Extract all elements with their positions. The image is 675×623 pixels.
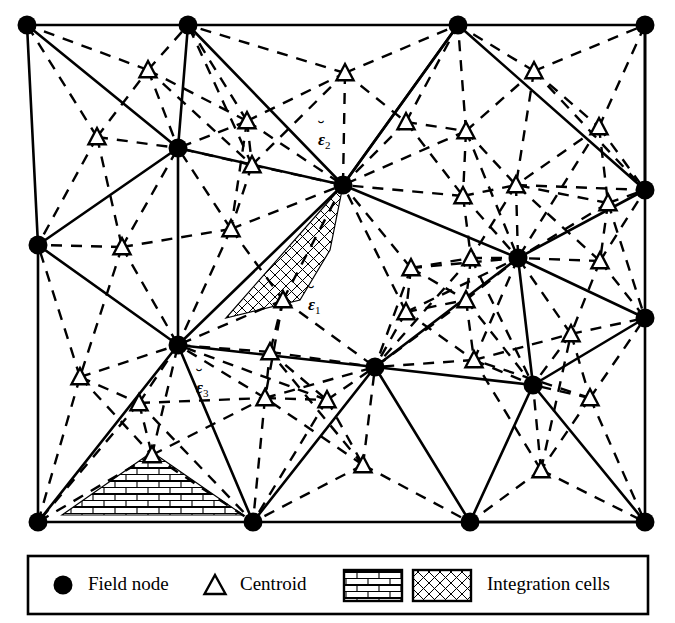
integration-cell-edge <box>541 398 590 470</box>
integration-cell-edge <box>122 148 178 247</box>
mesh-edge <box>375 367 470 522</box>
integration-cell-edge <box>458 25 466 131</box>
field-node-marker <box>636 16 655 35</box>
field-node-marker <box>18 16 37 35</box>
mesh-edge <box>253 367 375 522</box>
field-node-marker <box>524 376 543 395</box>
legend <box>28 556 648 614</box>
integration-cell-edge <box>375 360 474 367</box>
integration-cell-edge <box>516 127 599 185</box>
integration-cell-edge <box>80 377 152 455</box>
integration-cell-edge <box>406 122 463 196</box>
mesh-edge <box>38 245 178 345</box>
mesh-edge <box>533 318 645 385</box>
integration-cell-edge <box>270 352 363 465</box>
integration-cell-edge <box>27 25 148 70</box>
integration-cell-edge <box>571 261 600 334</box>
integration-cell-edge <box>188 25 252 165</box>
centroid-marker <box>532 461 549 477</box>
integration-cell-edge <box>463 196 471 258</box>
integration-cell-edge <box>247 73 345 121</box>
mesh-diagram <box>0 0 675 623</box>
integration-cell-edge <box>474 334 571 360</box>
integration-cell-edge <box>466 300 533 385</box>
integration-cell-edge <box>38 137 97 245</box>
mesh-edge <box>178 25 188 148</box>
integration-cell-edge <box>27 25 97 137</box>
integration-cell-edge <box>152 398 265 455</box>
legend-hatch-swatch-icon <box>413 570 471 601</box>
integration-cell-edge <box>343 185 463 196</box>
centroid-marker <box>397 113 414 129</box>
integration-cell-edge <box>406 25 458 122</box>
centroid-marker <box>238 112 255 128</box>
mesh-edge <box>470 385 533 522</box>
integration-cell-edge <box>80 345 178 377</box>
integration-cell-edge <box>265 398 363 465</box>
field-node-marker <box>636 309 655 328</box>
integration-cell-edge <box>80 247 122 377</box>
integration-cell-edge <box>97 137 122 247</box>
integration-cell-edge <box>122 229 231 247</box>
integration-cell-edge <box>533 385 541 470</box>
integration-cell-edge <box>600 261 645 318</box>
integration-cell-edge <box>534 71 645 190</box>
integration-cell-edge <box>458 25 534 71</box>
field-node-marker <box>334 176 353 195</box>
integration-cell-edge <box>516 185 518 258</box>
mesh-edge <box>458 25 645 190</box>
legend-centroid-icon <box>205 575 226 594</box>
integration-cell-edge <box>375 258 471 367</box>
integration-cell-edge <box>466 71 534 131</box>
centroid-marker <box>590 118 607 134</box>
mesh-edge <box>518 190 645 258</box>
label-eps2: ε2 <box>318 131 330 151</box>
integration-cell-edge <box>516 185 645 190</box>
field-node-marker <box>169 336 188 355</box>
field-node-marker <box>244 513 263 532</box>
integration-cell-edge <box>188 25 247 121</box>
triangulation-edges <box>27 25 645 522</box>
integration-cell-edge <box>516 185 600 261</box>
centroid-marker <box>143 446 160 462</box>
field-node-marker <box>169 139 188 158</box>
integration-cell-edge <box>599 25 645 127</box>
label-eps3: ε3 <box>196 379 208 399</box>
mesh-edge <box>27 25 38 245</box>
integration-cell-edge <box>343 73 345 185</box>
integration-cell-edge <box>599 127 645 190</box>
integration-cell-edge <box>178 229 231 345</box>
integration-cell-edge <box>590 398 645 522</box>
legend-brick-swatch-icon <box>344 570 402 601</box>
legend-box <box>28 556 648 614</box>
integration-cell-edge <box>122 247 178 345</box>
integration-cell-edge <box>571 334 590 398</box>
integration-cell-edge <box>265 398 327 400</box>
mesh-edge <box>518 258 645 318</box>
integration-cell-edge <box>518 258 600 261</box>
integration-cell-edge <box>252 73 345 165</box>
integration-cell-edge <box>231 165 252 229</box>
legend-field-node-icon <box>54 576 73 595</box>
field-node-marker <box>29 513 48 532</box>
integration-cell-edge <box>178 121 247 148</box>
mesh-edge <box>375 367 533 385</box>
field-node-marker <box>461 513 480 532</box>
integration-cell-edge <box>327 400 363 465</box>
field-node-marker <box>179 16 198 35</box>
centroid-marker <box>525 62 542 78</box>
field-node-marker <box>509 249 528 268</box>
field-node-marker <box>636 513 655 532</box>
label-eps1: ε1 <box>308 296 320 316</box>
mesh-edge <box>178 148 343 185</box>
integration-cell-edge <box>148 70 252 165</box>
integration-cell-edge <box>38 245 80 377</box>
field-node-marker <box>449 16 468 35</box>
integration-cell-edge <box>541 470 645 522</box>
field-node-marker <box>29 236 48 255</box>
integration-cell-edge <box>590 318 645 398</box>
integration-cell-edge <box>80 377 139 403</box>
integration-cell-edge <box>343 122 406 185</box>
mesh-edge <box>38 148 178 245</box>
centroid-marker <box>222 220 239 236</box>
